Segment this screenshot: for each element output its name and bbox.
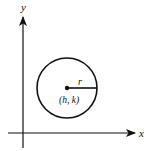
circle-diagram: y x r (h, k) <box>0 0 148 151</box>
center-point <box>65 86 69 90</box>
y-axis-label: y <box>20 1 26 13</box>
x-axis-label: x <box>138 127 144 139</box>
center-label: (h, k) <box>59 95 79 106</box>
radius-label: r <box>78 76 82 87</box>
